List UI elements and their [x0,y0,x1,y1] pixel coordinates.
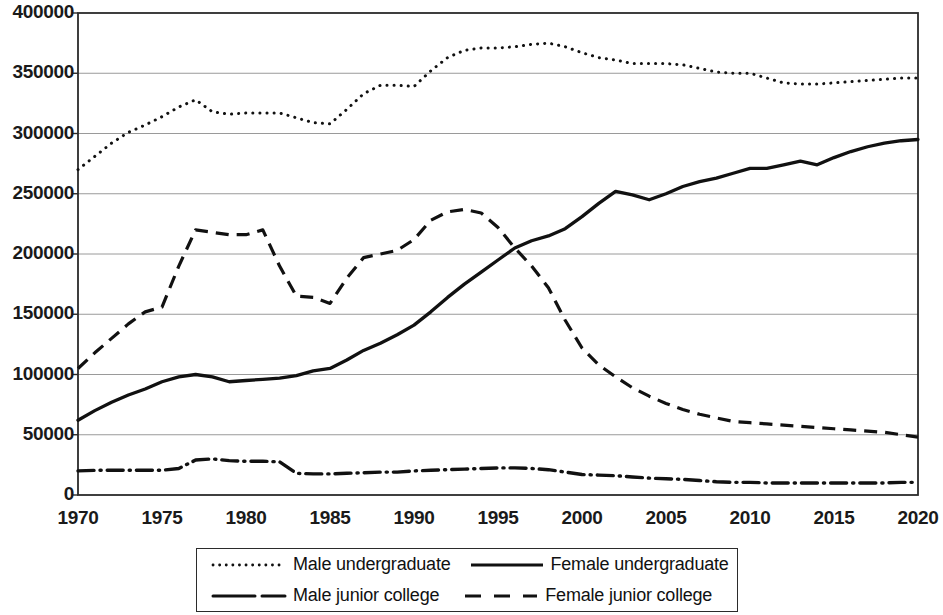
legend-swatch-dotted-icon [211,558,287,572]
x-tick-label: 1985 [295,507,365,529]
chart-legend: Male undergraduate Female undergraduate … [196,548,738,612]
x-tick-label: 2000 [547,507,617,529]
series-line-female-undergraduate [78,140,918,421]
y-tick-label: 300000 [0,122,74,144]
y-tick-label: 50000 [0,423,74,445]
legend-swatch-dashdot-icon [211,589,287,603]
legend-item-male-undergraduate: Male undergraduate [211,549,451,580]
x-tick-label: 2015 [799,507,869,529]
legend-label-female-undergraduate: Female undergraduate [551,554,729,575]
x-tick-label: 1975 [127,507,197,529]
x-tick-label: 1980 [211,507,281,529]
x-tick-label: 1990 [379,507,449,529]
x-tick-label: 1970 [43,507,113,529]
series-line-male-undergraduate [78,43,918,170]
y-tick-label: 200000 [0,242,74,264]
legend-label-male-undergraduate: Male undergraduate [293,554,451,575]
x-tick-label: 2005 [631,507,701,529]
legend-swatch-solid-icon [469,558,545,572]
y-tick-label: 100000 [0,363,74,385]
y-tick-label: 150000 [0,302,74,324]
y-tick-label: 250000 [0,182,74,204]
legend-item-male-junior-college: Male junior college [211,580,439,611]
gridlines [78,73,918,435]
x-tick-label: 1995 [463,507,533,529]
legend-swatch-dashed-icon [463,589,539,603]
legend-label-male-junior-college: Male junior college [293,585,439,606]
y-tick-label: 350000 [0,61,74,83]
legend-item-female-undergraduate: Female undergraduate [469,549,729,580]
series-line-male-junior-college [78,459,918,483]
legend-row-2: Male junior college Female junior colleg… [197,580,737,611]
x-tick-label: 2010 [715,507,785,529]
x-tick-label: 2020 [883,507,943,529]
legend-item-female-junior-college: Female junior college [463,580,712,611]
legend-label-female-junior-college: Female junior college [545,585,712,606]
legend-row-1: Male undergraduate Female undergraduate [197,549,737,580]
y-tick-label: 400000 [0,1,74,23]
series-line-female-junior-college [78,209,918,437]
series-lines [78,43,918,483]
y-tick-label: 0 [0,483,74,505]
